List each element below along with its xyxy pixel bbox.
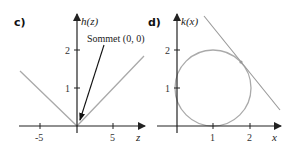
figure: c) -5 5 2 1 h(z) z Sommet (0, 0) d) (0, 0, 293, 148)
d-y-axis-label: k(x) (181, 15, 198, 28)
tangent-point (239, 60, 242, 63)
c-tick-label-1: 1 (65, 83, 70, 94)
c-y-axis-label: h(z) (81, 15, 98, 28)
d-tick-label-y2: 2 (165, 45, 170, 56)
d-tick-label-1: 1 (210, 132, 215, 143)
d-tick-label-y1: 1 (165, 83, 170, 94)
c-tick-label-neg5: -5 (35, 132, 43, 143)
annotation-arrow (80, 45, 104, 120)
panel-c-label: c) (14, 16, 26, 29)
panel-d: d) 1 2 2 1 k(x) x (148, 14, 281, 143)
panel-c: c) -5 5 2 1 h(z) z Sommet (0, 0) (14, 14, 145, 143)
d-tick-label-2: 2 (247, 132, 252, 143)
c-tick-label-5: 5 (110, 132, 115, 143)
c-tick-label-2: 2 (65, 45, 70, 56)
vertex-annotation: Sommet (0, 0) (87, 33, 145, 45)
panel-d-label: d) (148, 16, 161, 29)
c-x-axis-label: z (135, 131, 141, 143)
d-x-axis-label: x (271, 131, 277, 143)
